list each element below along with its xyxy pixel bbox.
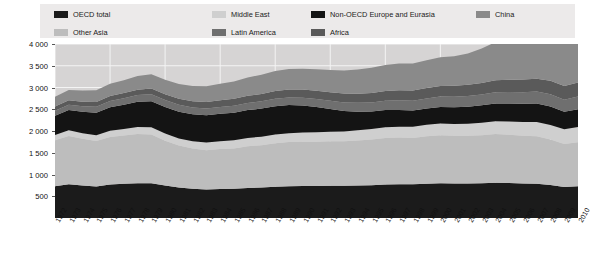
y-axis-labels: 4 0003 5003 0002 5002 0001 5001 000500 <box>0 40 52 218</box>
legend-label-china: China <box>495 10 514 19</box>
area-band-other-asia <box>55 134 578 189</box>
x-axis-labels: 1972197319741975197619771978197919801981… <box>55 220 578 264</box>
legend-item-latin-america: Latin America <box>212 26 276 39</box>
y-axis-tick-label: 3 000 <box>29 83 48 92</box>
legend-item-africa: Africa <box>311 26 349 39</box>
legend-swatch-africa <box>311 29 325 36</box>
legend-label-latin-america: Latin America <box>231 28 276 37</box>
legend-row-1: OECD total Middle East Non-OECD Europe a… <box>40 8 575 21</box>
chart-plot-area <box>55 44 578 218</box>
legend-item-non-oecd-europe-eurasia: Non-OECD Europe and Eurasia <box>311 8 435 21</box>
legend-label-middle-east: Middle East <box>231 10 270 19</box>
legend-label-africa: Africa <box>330 28 349 37</box>
legend-label-oecd-total: OECD total <box>73 10 110 19</box>
legend-swatch-latin-america <box>212 29 226 36</box>
legend-swatch-non-oecd-europe-eurasia <box>311 11 325 18</box>
legend-label-other-asia: Other Asia <box>73 28 108 37</box>
legend-swatch-oecd-total <box>54 11 68 18</box>
y-axis-tick-label: 4 000 <box>29 40 48 49</box>
legend-row-2: Other Asia Latin America Africa <box>40 26 575 39</box>
legend-item-middle-east: Middle East <box>212 8 270 21</box>
y-axis-tick-label: 1 000 <box>29 170 48 179</box>
y-axis-tick-label: 2 000 <box>29 127 48 136</box>
legend-swatch-other-asia <box>54 29 68 36</box>
legend-item-oecd-total: OECD total <box>54 8 110 21</box>
legend-label-non-oecd-europe-eurasia: Non-OECD Europe and Eurasia <box>330 10 435 19</box>
plot-wrapper: 4 0003 5003 0002 5002 0001 5001 000500 1… <box>0 40 583 264</box>
y-axis-tick-label: 500 <box>35 192 48 201</box>
legend-item-china: China <box>476 8 514 21</box>
legend-item-other-asia: Other Asia <box>54 26 108 39</box>
chart-legend: OECD total Middle East Non-OECD Europe a… <box>40 4 575 38</box>
y-axis-tick-label: 1 500 <box>29 148 48 157</box>
legend-swatch-middle-east <box>212 11 226 18</box>
stacked-area-chart <box>55 44 578 218</box>
legend-swatch-china <box>476 11 490 18</box>
y-axis-tick-label: 3 500 <box>29 61 48 70</box>
x-axis-tick-label: 2010 <box>577 207 591 224</box>
y-axis-tick-label: 2 500 <box>29 105 48 114</box>
